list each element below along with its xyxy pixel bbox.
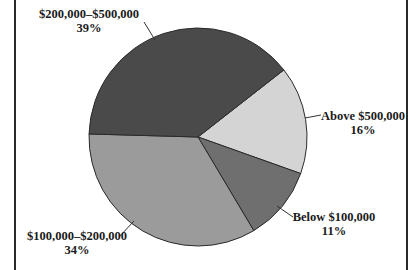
label-100k-200k-pct: 34% xyxy=(21,243,133,257)
label-above-500k-name: Above $500,000 xyxy=(318,109,408,123)
label-above-500k-pct: 16% xyxy=(318,123,408,137)
label-below-100k: Below $100,000 11% xyxy=(289,210,379,238)
label-200k-500k-pct: 39% xyxy=(33,21,145,35)
pie-slices xyxy=(89,28,307,246)
label-100k-200k: $100,000–$200,000 34% xyxy=(21,229,133,257)
label-200k-500k: $200,000–$500,000 39% xyxy=(33,7,145,35)
label-100k-200k-name: $100,000–$200,000 xyxy=(21,229,133,243)
label-below-100k-pct: 11% xyxy=(289,224,379,238)
label-200k-500k-name: $200,000–$500,000 xyxy=(33,7,145,21)
label-above-500k: Above $500,000 16% xyxy=(318,109,408,137)
label-below-100k-name: Below $100,000 xyxy=(289,210,379,224)
leader-line-200k-500k xyxy=(144,22,155,40)
